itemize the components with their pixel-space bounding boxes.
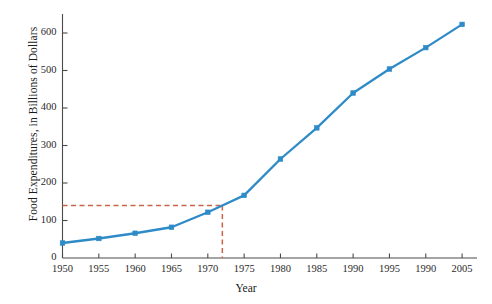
y-axis-title: Food Expenditures, in Billions of Dollar… [27,0,39,249]
chart-figure: 1950195519601965197019751980198519901995… [0,0,492,304]
chart-axes [63,14,478,258]
y-tick-label: 0 [23,251,57,262]
x-axis-ticks [63,254,463,259]
x-axis-title: Year [0,282,492,294]
data-point-markers [60,22,464,245]
y-axis-ticks [63,33,68,221]
data-series-line [63,24,463,243]
x-tick-label: 2005 [441,263,483,274]
line-chart-plot [0,0,492,304]
